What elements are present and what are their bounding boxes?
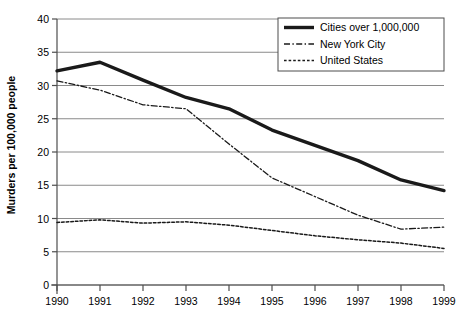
legend: Cities over 1,000,000New York CityUnited… xyxy=(278,18,444,71)
series-line-0 xyxy=(57,62,444,190)
legend-label-1: New York City xyxy=(320,38,386,50)
data-series-layer xyxy=(57,62,444,248)
legend-label-2: United States xyxy=(320,54,383,66)
legend-label-0: Cities over 1,000,000 xyxy=(320,21,419,33)
series-line-1 xyxy=(57,81,444,229)
